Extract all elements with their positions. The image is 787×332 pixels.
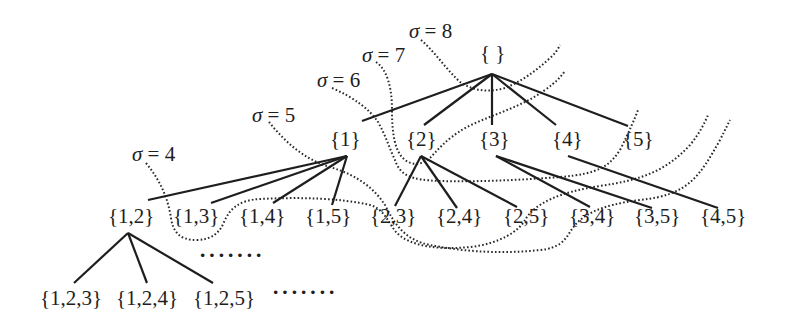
sigma-label-5: σ = 5	[252, 105, 295, 126]
sigma-label-8: σ = 8	[409, 21, 452, 42]
sigma-value: = 5	[262, 103, 295, 127]
node-level2: {1,3}	[173, 206, 219, 227]
node-level1: {5}	[623, 129, 654, 150]
node-level2: {4,5}	[700, 206, 746, 227]
node-level2: {2,5}	[503, 206, 549, 227]
ellipsis-mid: ·······	[199, 244, 264, 266]
sigma-value: = 6	[327, 68, 360, 92]
node-level1: {3}	[479, 129, 510, 150]
sigma-value: = 4	[142, 142, 175, 166]
sigma-value: = 7	[372, 43, 405, 67]
subset-lattice-diagram: { } {1} {2} {3} {4} {5} {1,2} {1,3} {1,4…	[0, 0, 787, 332]
node-root: { }	[480, 43, 505, 64]
contour-sigma-7	[376, 62, 565, 164]
node-level3: {1,2,5}	[193, 288, 255, 309]
ellipsis-bottom: ·······	[272, 281, 337, 303]
node-level2: {1,4}	[239, 206, 285, 227]
node-level2: {1,5}	[305, 206, 351, 227]
node-level1: {2}	[406, 129, 437, 150]
sigma-label-4: σ = 4	[132, 144, 175, 165]
sigma-symbol: σ	[252, 103, 262, 127]
node-level2: {1,2}	[108, 206, 154, 227]
sigma-symbol: σ	[132, 142, 142, 166]
node-level2: {3,4}	[569, 206, 615, 227]
node-level3: {1,2,4}	[116, 288, 178, 309]
sigma-label-6: σ = 6	[317, 70, 360, 91]
sigma-symbol: σ	[409, 19, 419, 43]
node-level3: {1,2,3}	[40, 288, 102, 309]
node-level1: {1}	[330, 129, 361, 150]
sigma-symbol: σ	[317, 68, 327, 92]
node-level1: {4}	[552, 129, 583, 150]
sigma-value: = 8	[419, 19, 452, 43]
node-level2: {2,4}	[436, 206, 482, 227]
node-level2: {3,5}	[634, 206, 680, 227]
sigma-symbol: σ	[362, 43, 372, 67]
node-level2: {2,3}	[370, 206, 416, 227]
tree-edges	[74, 74, 718, 283]
sigma-label-7: σ = 7	[362, 45, 405, 66]
